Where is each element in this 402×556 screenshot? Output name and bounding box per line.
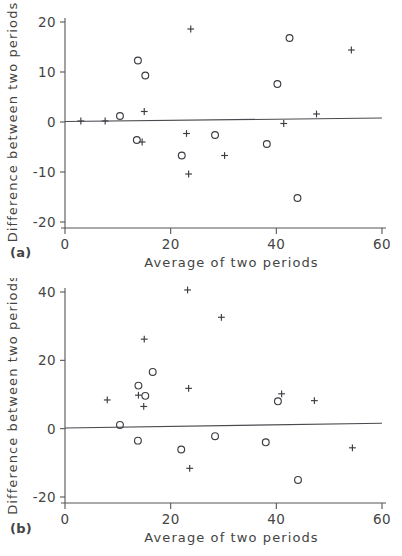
y-tick-label: 40 [38,284,56,300]
data-point-circle [135,437,142,444]
x-tick-label: 20 [162,236,180,252]
data-point-cross [185,385,192,392]
panel-b: 40200-200204060Average of two periodsDif… [0,278,402,556]
y-tick-label: 20 [38,352,56,368]
y-tick-label: 20 [38,14,56,30]
x-tick-label: 60 [373,511,391,527]
data-point-circle [178,446,185,453]
data-point-circle [212,132,219,139]
data-point-circle [142,72,149,79]
y-tick-label: -20 [33,489,56,505]
data-point-circle [149,369,156,376]
panel-label: (a) [10,245,32,260]
data-point-cross [140,403,147,410]
data-point-cross [278,390,285,397]
data-point-circle [294,195,301,202]
data-point-circle [295,477,302,484]
data-point-cross [185,171,192,178]
data-point-cross [187,26,194,33]
data-point-cross [141,336,148,343]
data-point-circle [142,392,149,399]
y-tick-label: -20 [33,214,56,230]
data-point-circle [274,81,281,88]
y-axis-title: Difference between two periods [5,2,20,243]
data-point-circle [178,152,185,159]
data-point-circle [263,141,270,148]
data-point-cross [184,287,191,294]
data-point-cross [311,397,318,404]
data-point-cross [183,130,190,137]
data-point-cross [102,118,109,125]
panel-a: 20100-10-200204060Average of two periods… [0,0,402,278]
data-point-circle [286,35,293,42]
data-point-cross [218,314,225,321]
y-tick-label: 0 [47,114,56,130]
x-tick-label: 0 [61,511,70,527]
x-tick-label: 40 [267,236,285,252]
data-point-cross [141,108,148,115]
data-point-circle [117,113,124,120]
data-point-cross [104,397,111,404]
x-axis-title: Average of two periods [144,255,318,270]
data-point-circle [135,382,142,389]
data-point-circle [212,433,219,440]
data-point-cross [280,120,287,127]
data-point-cross [348,47,355,54]
scatter-plot-a: 20100-10-200204060Average of two periods… [0,0,402,278]
data-point-cross [221,152,228,159]
scatter-plot-b: 40200-200204060Average of two periodsDif… [0,278,402,556]
data-point-circle [275,398,282,405]
x-tick-label: 0 [61,236,70,252]
data-point-circle [262,439,269,446]
y-tick-label: 10 [38,64,56,80]
x-tick-label: 40 [267,511,285,527]
x-axis-title: Average of two periods [144,530,318,545]
reference-line [65,423,382,428]
x-tick-label: 20 [162,511,180,527]
y-axis-title: Difference between two periods [5,278,20,515]
data-point-cross [135,392,142,399]
panel-label: (b) [10,521,32,536]
data-point-cross [313,111,320,118]
reference-line [65,118,382,122]
data-point-circle [135,57,142,64]
data-point-cross [186,465,193,472]
data-point-cross [349,444,356,451]
data-point-cross [77,118,84,125]
x-tick-label: 60 [373,236,391,252]
y-tick-label: -10 [33,164,56,180]
y-tick-label: 0 [47,421,56,437]
